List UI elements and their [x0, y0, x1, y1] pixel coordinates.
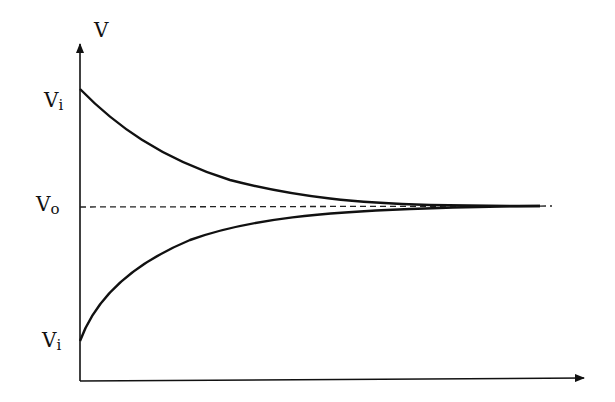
- label-v-initial-bottom: Vi: [42, 330, 61, 353]
- label-main: V: [36, 192, 50, 216]
- label-v-final-mid: Vo: [36, 194, 59, 217]
- rise-curve-from-below: [80, 206, 540, 341]
- label-main: V: [44, 88, 58, 112]
- y-axis-label: V: [94, 20, 108, 40]
- label-subscript: i: [56, 336, 61, 354]
- y-axis-label-text: V: [94, 18, 108, 42]
- label-main: V: [42, 328, 56, 352]
- label-subscript: o: [50, 200, 59, 218]
- decay-curve-from-above: [80, 89, 540, 206]
- exponential-approach-diagram: V Vi Vo Vi: [0, 0, 615, 402]
- diagram-canvas: [0, 0, 615, 402]
- label-subscript: i: [58, 96, 63, 114]
- label-v-initial-top: Vi: [44, 90, 63, 113]
- x-axis: [80, 378, 584, 381]
